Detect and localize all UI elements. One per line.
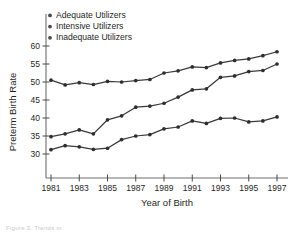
legend-label: Intensive Utilizers <box>56 21 123 31</box>
data-point <box>49 78 53 82</box>
series-adequate-utilizers <box>49 50 279 87</box>
legend: Adequate UtilizersIntensive UtilizersIna… <box>48 10 132 42</box>
data-point <box>219 117 223 121</box>
data-point <box>247 57 251 61</box>
data-point <box>247 70 251 74</box>
series-inadequate-utilizers <box>49 115 279 151</box>
x-tick-label: 1989 <box>155 183 174 193</box>
x-tick-label: 1997 <box>268 183 287 193</box>
data-point <box>106 79 110 83</box>
y-tick-label: 40 <box>31 113 41 123</box>
data-point <box>92 83 96 87</box>
data-point <box>63 144 67 148</box>
y-tick-label: 30 <box>31 149 41 159</box>
data-point <box>120 138 124 142</box>
data-point <box>49 148 53 152</box>
data-point <box>148 78 152 82</box>
data-point <box>162 127 166 131</box>
data-point <box>134 134 138 138</box>
data-point <box>205 122 209 126</box>
data-point <box>134 105 138 109</box>
data-point <box>190 119 194 123</box>
data-point <box>205 87 209 91</box>
line-chart-canvas: 3035404550556019811983198519871989199119… <box>0 0 297 233</box>
data-point <box>247 120 251 124</box>
y-tick-label: 60 <box>31 41 41 51</box>
x-tick-label: 1981 <box>42 183 61 193</box>
data-point <box>219 75 223 79</box>
series-line <box>51 117 277 150</box>
legend-marker-icon <box>48 36 52 40</box>
data-point <box>275 62 279 66</box>
y-axis-title: Preterm Birth Rate <box>7 73 18 152</box>
y-tick-label: 45 <box>31 95 41 105</box>
data-point <box>219 61 223 65</box>
x-tick-label: 1991 <box>183 183 202 193</box>
data-point <box>120 80 124 84</box>
chart-figure: 3035404550556019811983198519871989199119… <box>0 0 297 233</box>
x-tick-label: 1987 <box>126 183 145 193</box>
data-point <box>77 128 81 132</box>
x-tick-label: 1985 <box>98 183 117 193</box>
series-line <box>51 52 277 85</box>
data-point <box>176 69 180 73</box>
x-axis-title: Year of Birth <box>141 197 193 208</box>
data-point <box>275 50 279 54</box>
x-tick-label: 1993 <box>211 183 230 193</box>
data-point <box>261 69 265 73</box>
data-point <box>205 66 209 70</box>
data-point <box>106 146 110 150</box>
y-tick-label: 55 <box>31 59 41 69</box>
legend-marker-icon <box>48 14 52 18</box>
data-point <box>233 74 237 78</box>
data-point <box>63 132 67 136</box>
data-point <box>134 79 138 83</box>
data-point <box>176 125 180 129</box>
figure-caption-partial: Figure 3. Trends in <box>6 225 62 232</box>
legend-marker-icon <box>48 25 52 29</box>
data-point <box>49 135 53 139</box>
data-point <box>148 133 152 137</box>
data-point <box>233 59 237 63</box>
data-point <box>148 104 152 108</box>
legend-label: Adequate Utilizers <box>56 10 126 20</box>
data-point <box>162 101 166 105</box>
data-point <box>106 118 110 122</box>
data-point <box>92 147 96 151</box>
series-line <box>51 64 277 137</box>
y-tick-label: 35 <box>31 131 41 141</box>
data-point <box>120 114 124 118</box>
data-point <box>261 119 265 123</box>
data-point <box>77 145 81 149</box>
data-point <box>190 65 194 69</box>
legend-label: Inadequate Utilizers <box>56 32 132 42</box>
data-point <box>92 132 96 136</box>
x-tick-label: 1995 <box>239 183 258 193</box>
data-point <box>275 115 279 119</box>
x-tick-label: 1983 <box>70 183 89 193</box>
data-point <box>233 116 237 120</box>
data-point <box>63 83 67 87</box>
data-point <box>190 88 194 92</box>
data-point <box>77 81 81 85</box>
data-point <box>162 71 166 75</box>
y-tick-label: 50 <box>31 77 41 87</box>
data-point <box>261 54 265 58</box>
data-point <box>176 95 180 99</box>
